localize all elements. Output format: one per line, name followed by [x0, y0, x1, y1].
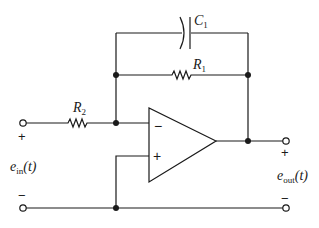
input-minus-terminal: [20, 205, 26, 211]
output-plus-terminal: [283, 138, 289, 144]
feedback-resistor-wire: [116, 71, 248, 79]
op-amp-noninverting-sign: +: [153, 148, 161, 164]
noninverting-input-wire: [116, 156, 149, 208]
feedback-resistor-label: R1: [192, 57, 206, 74]
op-amp-inverting-sign: −: [154, 118, 162, 134]
input-resistor-wire: [26, 119, 149, 127]
output-voltage-label: eout(t): [277, 168, 308, 185]
output-minus-sign: −: [281, 191, 289, 206]
input-plus-sign: +: [18, 129, 26, 144]
junction-dot: [113, 72, 119, 78]
junction-dot: [113, 120, 119, 126]
circuit-diagram: C1 R1 R2 − + + − + − ein(t) eout(t): [0, 0, 319, 228]
junction-dot: [245, 72, 251, 78]
junction-dot: [245, 138, 251, 144]
input-voltage-label: ein(t): [10, 159, 37, 176]
input-resistor-label: R2: [72, 100, 86, 117]
input-plus-terminal: [20, 120, 26, 126]
input-minus-sign: −: [18, 188, 26, 203]
junction-dot: [113, 205, 119, 211]
output-plus-sign: +: [281, 145, 289, 160]
capacitor-label: C1: [194, 13, 208, 30]
